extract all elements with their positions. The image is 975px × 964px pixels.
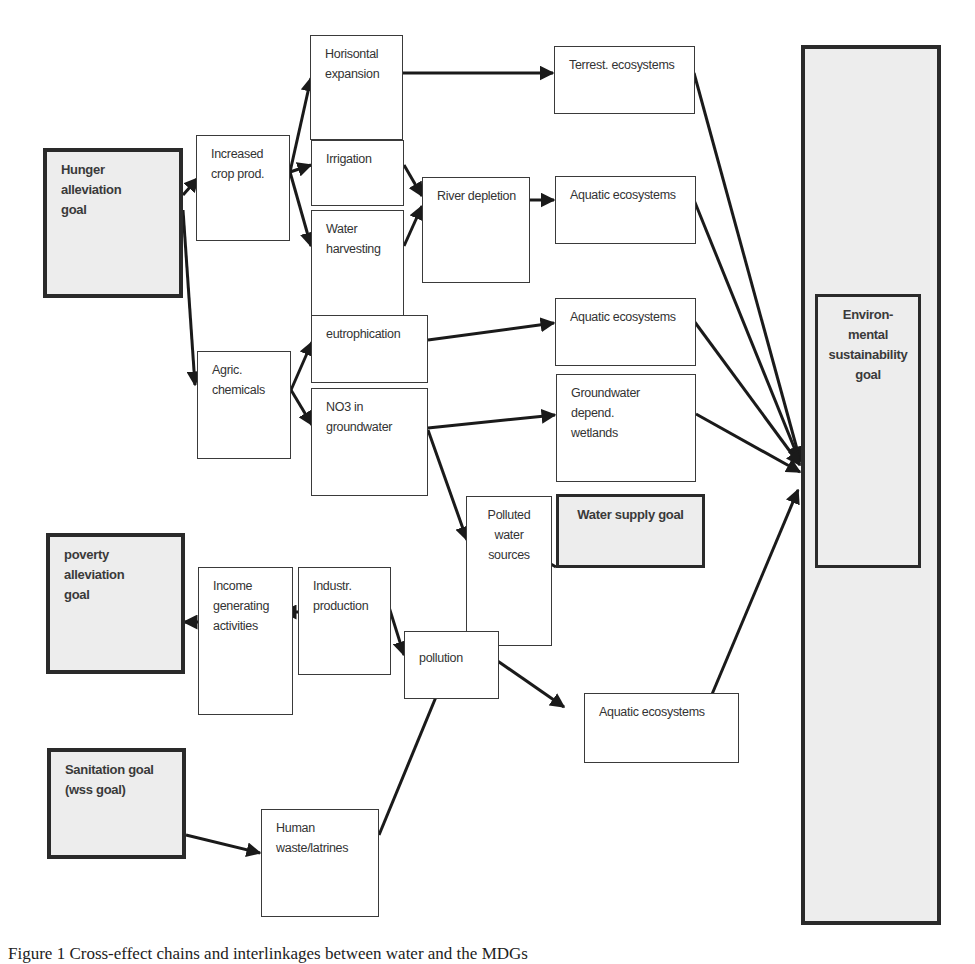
polluted-water-label: Polluted water sources: [471, 505, 547, 565]
human-waste-node: Human waste/latrines: [261, 809, 379, 917]
water-harvesting-node: Water harvesting: [311, 210, 404, 316]
increased-crop-node: Increased crop prod.: [196, 135, 290, 241]
river-depletion-label: River depletion: [437, 186, 519, 206]
agric-chemicals-node: Agric. chemicals: [197, 351, 291, 459]
eutrophication-label: eutrophication: [326, 324, 417, 344]
arrow-water-harvesting-to-river-depletion: [404, 206, 422, 246]
arrow-increased-crop-to-water-harvesting: [290, 172, 311, 246]
poverty-goal-label: poverty alleviation goal: [64, 545, 171, 605]
aquatic-ecosystems-1-label: Aquatic ecosystems: [570, 185, 685, 205]
industr-production-label: Industr. production: [313, 576, 380, 616]
arrow-agric-chemicals-to-no3-groundwater: [291, 390, 312, 425]
water-supply-goal-node: Water supply goal: [556, 494, 705, 568]
pollution-node: pollution: [404, 631, 499, 699]
arrow-pollution-to-aquatic-ecosystems-3: [489, 655, 564, 707]
no3-groundwater-node: NO3 in groundwater: [311, 388, 428, 496]
figure-caption: Figure 1 Cross-effect chains and interli…: [8, 944, 528, 964]
env-goal-node: Environ- mental sustainability goal: [815, 294, 921, 568]
terrest-ecosystems-label: Terrest. ecosystems: [569, 55, 684, 75]
hunger-goal-label: Hunger alleviation goal: [61, 160, 169, 220]
aquatic-ecosystems-2-label: Aquatic ecosystems: [570, 307, 685, 327]
arrow-aquatic-ecosystems-1-to-env-goal: [694, 200, 800, 462]
river-depletion-node: River depletion: [422, 177, 530, 283]
income-generating-label: Income generating activities: [213, 576, 282, 636]
arrow-aquatic-ecosystems-3-to-env-goal: [702, 490, 798, 718]
arrow-terrest-ecosystems-to-env-goal: [694, 73, 800, 460]
water-harvesting-label: Water harvesting: [326, 219, 393, 259]
groundwater-wetlands-node: Groundwater depend. wetlands: [556, 374, 696, 482]
aquatic-ecosystems-2-node: Aquatic ecosystems: [555, 298, 696, 366]
groundwater-wetlands-label: Groundwater depend. wetlands: [571, 383, 685, 443]
polluted-water-node: Polluted water sources: [466, 496, 552, 646]
arrow-increased-crop-to-irrigation: [290, 165, 311, 172]
horizontal-expansion-node: Horisontal expansion: [310, 35, 403, 140]
arrow-hunger-goal-to-agric-chemicals: [183, 210, 195, 385]
arrow-no3-groundwater-to-polluted-water: [428, 430, 467, 540]
pollution-label: pollution: [419, 640, 488, 668]
arrow-agric-chemicals-to-eutrophication: [291, 342, 312, 390]
arrow-aquatic-ecosystems-2-to-env-goal: [694, 321, 800, 465]
arrow-irrigation-to-river-depletion: [404, 165, 422, 196]
arrow-groundwater-wetlands-to-env-goal: [696, 414, 800, 472]
horizontal-expansion-label: Horisontal expansion: [325, 44, 392, 84]
arrow-no3-groundwater-to-groundwater-wetlands: [428, 415, 555, 428]
arrow-increased-crop-to-horizontal-expansion: [290, 78, 311, 172]
increased-crop-label: Increased crop prod.: [211, 144, 279, 184]
agric-chemicals-label: Agric. chemicals: [212, 360, 280, 400]
water-supply-goal-label: Water supply goal: [563, 505, 698, 525]
aquatic-ecosystems-3-node: Aquatic ecosystems: [584, 693, 739, 763]
sanitation-goal-node: Sanitation goal (wss goal): [47, 748, 186, 859]
hunger-goal-node: Hunger alleviation goal: [43, 148, 183, 298]
aquatic-ecosystems-3-label: Aquatic ecosystems: [599, 702, 728, 722]
poverty-goal-node: poverty alleviation goal: [46, 533, 185, 674]
income-generating-node: Income generating activities: [198, 567, 293, 715]
arrow-eutrophication-to-aquatic-ecosystems-2: [428, 323, 554, 340]
arrow-industr-production-to-pollution: [389, 607, 404, 655]
irrigation-node: Irrigation: [311, 140, 404, 206]
aquatic-ecosystems-1-node: Aquatic ecosystems: [555, 176, 696, 244]
terrest-ecosystems-node: Terrest. ecosystems: [554, 46, 695, 114]
no3-groundwater-label: NO3 in groundwater: [326, 397, 417, 437]
industr-production-node: Industr. production: [298, 567, 391, 675]
irrigation-label: Irrigation: [326, 149, 393, 169]
sanitation-goal-label: Sanitation goal (wss goal): [65, 760, 172, 800]
human-waste-label: Human waste/latrines: [276, 818, 368, 858]
env-goal-label: Environ- mental sustainability goal: [822, 305, 914, 385]
arrow-sanitation-goal-to-human-waste: [186, 835, 260, 853]
eutrophication-node: eutrophication: [311, 315, 428, 383]
